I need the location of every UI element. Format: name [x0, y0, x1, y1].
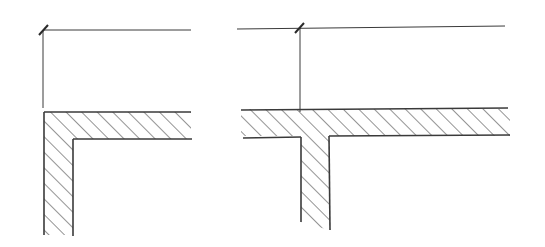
hatched-section: [44, 112, 191, 235]
wall-right-edge: [329, 136, 330, 230]
diagram-canvas: [0, 0, 545, 247]
hatched-section: [241, 109, 510, 230]
slab-bottom-edge-left: [243, 137, 301, 138]
figure-right-junction: [237, 23, 510, 230]
slab-bottom-edge-right: [329, 135, 510, 136]
figure-left-corner: [39, 25, 192, 236]
dimension-line: [237, 26, 505, 29]
